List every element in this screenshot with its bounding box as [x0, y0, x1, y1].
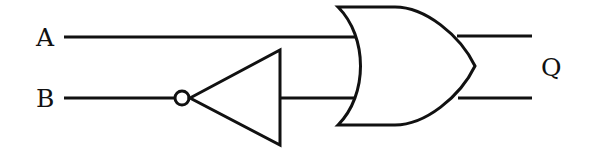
input-label-a: A	[35, 23, 55, 52]
input-label-b: B	[36, 84, 54, 113]
logic-circuit-diagram: A B Q	[0, 0, 590, 151]
output-label-q: Q	[541, 53, 562, 82]
not-gate-triangle	[190, 50, 280, 145]
not-gate-icon	[175, 50, 280, 145]
or-gate-icon	[338, 7, 475, 125]
